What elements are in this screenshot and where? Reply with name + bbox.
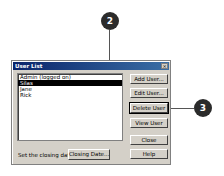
callout-3: 3 <box>194 99 212 117</box>
add-user-button[interactable]: Add User... <box>130 74 168 84</box>
user-list-dialog: User List × Admin (logged on) Silas Jane… <box>11 60 171 165</box>
title-bar: User List × <box>13 62 169 70</box>
closing-date-label: Set the closing date: <box>18 152 75 158</box>
closing-date-button[interactable]: Closing Date... <box>68 149 110 160</box>
close-icon[interactable]: × <box>161 63 168 69</box>
list-item[interactable]: Rick <box>18 92 122 98</box>
delete-user-button[interactable]: Delete User <box>130 103 168 113</box>
callout-2: 2 <box>101 12 119 30</box>
dialog-title: User List <box>13 62 42 70</box>
edit-user-button[interactable]: Edit User... <box>130 88 168 98</box>
user-listbox[interactable]: Admin (logged on) Silas Jane Rick <box>17 73 123 141</box>
help-button[interactable]: Help <box>130 149 168 159</box>
view-user-button[interactable]: View User <box>130 118 168 128</box>
close-button[interactable]: Close <box>130 135 168 145</box>
